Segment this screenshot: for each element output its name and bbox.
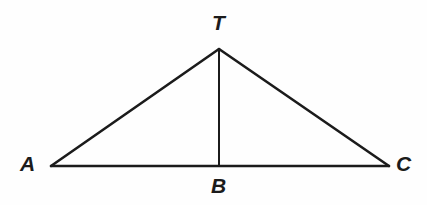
- geometry-figure: A T B C: [0, 0, 427, 205]
- vertex-label-b: B: [211, 175, 226, 196]
- segment-AT: [51, 49, 219, 166]
- segment-TC: [219, 49, 389, 166]
- vertex-label-a: A: [20, 153, 35, 174]
- vertex-label-t: T: [212, 12, 225, 33]
- vertex-label-c: C: [396, 153, 411, 174]
